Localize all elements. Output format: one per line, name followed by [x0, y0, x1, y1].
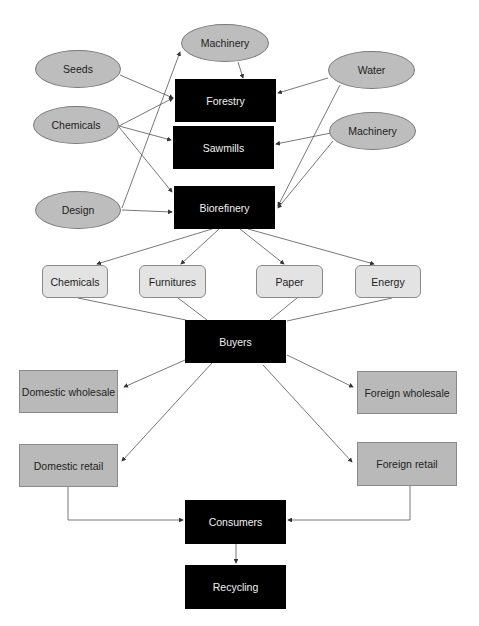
input-design: Design	[35, 191, 121, 229]
channel-domestic-retail: Domestic retail	[19, 444, 118, 487]
buyers-box: Buyers	[185, 320, 286, 363]
input-machinery-top: Machinery	[181, 24, 269, 62]
input-seeds: Seeds	[35, 50, 121, 88]
channel-foreign-retail: Foreign retail	[357, 442, 457, 486]
recycling-box: Recycling	[185, 565, 286, 609]
process-biorefinery: Biorefinery	[174, 186, 275, 229]
product-furnitures: Furnitures	[139, 265, 206, 298]
process-sawmills: Sawmills	[173, 126, 274, 169]
input-machinery-right: Machinery	[329, 112, 416, 150]
channel-foreign-wholesale: Foreign wholesale	[357, 371, 457, 414]
input-chemicals: Chemicals	[33, 106, 119, 144]
input-water: Water	[328, 51, 415, 89]
product-energy: Energy	[355, 265, 421, 298]
product-paper: Paper	[256, 265, 323, 298]
channel-domestic-wholesale: Domestic wholesale	[19, 370, 118, 413]
consumers-box: Consumers	[185, 500, 286, 544]
product-chemicals: Chemicals	[42, 265, 108, 298]
process-forestry: Forestry	[175, 79, 276, 122]
